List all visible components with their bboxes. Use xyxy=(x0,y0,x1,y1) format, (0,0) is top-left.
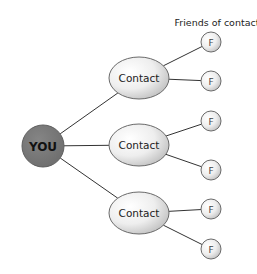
edge-you-to-contact-3 xyxy=(60,158,118,198)
friend-node-3: F xyxy=(201,111,221,131)
friend-node-5: F xyxy=(201,199,221,219)
edge-contact-to-friend-4 xyxy=(166,154,202,166)
friends-of-contact-label: Friends of contact xyxy=(175,17,257,28)
edge-contact-to-friend-6 xyxy=(163,225,202,244)
nodes: YOUContactContactContactFFFFFF xyxy=(22,32,221,259)
edge-contact-to-friend-1 xyxy=(163,46,202,65)
friend-node-1: F xyxy=(201,32,221,52)
you-node: YOU xyxy=(22,125,64,167)
contact-node-1: Contact xyxy=(109,57,169,99)
edge-you-to-contact-1 xyxy=(60,93,118,134)
friend-node-6: F xyxy=(201,239,221,259)
friend-label: F xyxy=(208,117,213,127)
contact-label: Contact xyxy=(119,139,160,151)
friend-node-4: F xyxy=(201,160,221,180)
friend-label: F xyxy=(208,166,213,176)
friend-label: F xyxy=(208,38,213,48)
contact-node-3: Contact xyxy=(109,192,169,234)
contact-node-2: Contact xyxy=(109,124,169,166)
friend-label: F xyxy=(208,245,213,255)
you-label: YOU xyxy=(28,140,57,154)
friend-label: F xyxy=(208,77,213,87)
contact-label: Contact xyxy=(119,72,160,84)
edge-contact-to-friend-3 xyxy=(166,124,201,136)
contact-label: Contact xyxy=(119,207,160,219)
edge-contact-to-friend-5 xyxy=(169,210,201,212)
edge-contact-to-friend-2 xyxy=(169,79,201,80)
friend-node-2: F xyxy=(201,71,221,91)
friend-label: F xyxy=(208,205,213,215)
network-diagram: YOUContactContactContactFFFFFF Friends o… xyxy=(0,0,257,274)
